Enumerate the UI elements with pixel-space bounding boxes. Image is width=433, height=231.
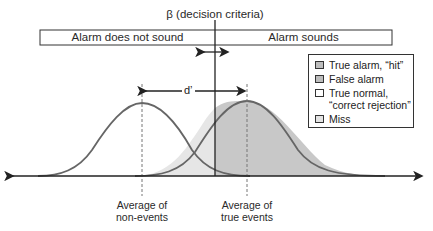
alarm-off-label: Alarm does not sound <box>40 30 215 45</box>
legend-correct-rejection-line2: “correct rejection” <box>329 100 411 111</box>
legend-miss: Miss <box>329 114 351 125</box>
signal-mean-label: Average of true events <box>221 199 273 223</box>
noise-mean-label-line2: non-events <box>116 211 168 223</box>
alarm-on-label: Alarm sounds <box>215 30 392 45</box>
hit-swatch <box>315 61 324 69</box>
legend: True alarm, “hit” False alarm True norma… <box>308 54 414 128</box>
legend-hit: True alarm, “hit” <box>329 60 403 71</box>
correct-rejection-swatch <box>315 89 324 97</box>
false-alarm-swatch <box>315 75 324 83</box>
signal-mean-label-line2: true events <box>221 211 273 223</box>
miss-swatch <box>315 115 324 123</box>
legend-correct-rejection-line1: True normal, <box>329 88 388 99</box>
d-prime-label: d’ <box>182 84 195 96</box>
noise-mean-label-line1: Average of <box>116 199 168 211</box>
noise-mean-label: Average of non-events <box>116 199 168 223</box>
legend-false-alarm: False alarm <box>329 74 384 85</box>
miss-region <box>135 108 215 176</box>
signal-mean-label-line1: Average of <box>221 199 273 211</box>
beta-label: β (decision criteria) <box>166 8 263 20</box>
